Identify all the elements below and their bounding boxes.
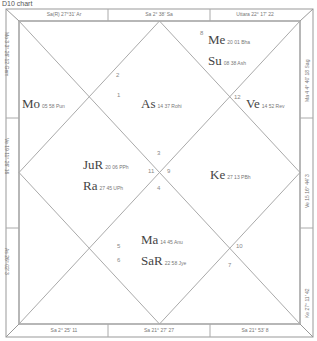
bottom-band-2: Sa 21° 27' 27 bbox=[108, 327, 210, 333]
house-number: 4 bbox=[157, 185, 160, 191]
planet-me: Me20 01 Bha bbox=[208, 30, 250, 48]
right-band-2: Ve 15 16° 44' 3 bbox=[304, 138, 310, 208]
planet-mo: Mo05 58 Pun bbox=[22, 94, 65, 112]
planet-degree: 14 52 Rev bbox=[262, 103, 285, 109]
right-band-1: Ma 4 4° 40' 18 Sag bbox=[304, 32, 310, 102]
chart-frame bbox=[0, 0, 317, 341]
house-number: 8 bbox=[200, 30, 203, 36]
planet-su: Su08 38 Ash bbox=[208, 51, 246, 69]
planet-abbr: As bbox=[141, 96, 155, 111]
planet-sar: SaR22 58 Jye bbox=[141, 251, 186, 269]
right-band-3: Ke 27° 11' 42 bbox=[304, 248, 310, 318]
planet-degree: 20 06 PPh bbox=[105, 164, 128, 170]
house-number: 6 bbox=[117, 257, 120, 263]
planet-abbr: Mo bbox=[22, 96, 40, 111]
planet-degree: 14 45 Anu bbox=[160, 239, 183, 245]
house-number: 12 bbox=[234, 94, 241, 100]
planet-abbr: SaR bbox=[141, 253, 163, 268]
house-number: 2 bbox=[116, 72, 119, 78]
bottom-band-1: Sa 2° 25' 11 bbox=[20, 327, 108, 333]
planet-ma: Ma14 45 Anu bbox=[141, 230, 183, 248]
planet-jur: JuR20 06 PPh bbox=[83, 155, 129, 173]
left-band-1: Mo 3 3° 26' 12 Gem bbox=[4, 32, 10, 102]
top-band-3: Uttara 22° 17' 22 bbox=[210, 11, 300, 17]
planet-degree: 20 01 Bha bbox=[227, 39, 250, 45]
planet-abbr: JuR bbox=[83, 157, 103, 172]
bottom-band-3: Sa 21° 53' 8 bbox=[210, 327, 300, 333]
planet-ra: Ra27 45 UPh bbox=[83, 176, 123, 194]
planet-abbr: Me bbox=[208, 32, 225, 47]
bevel-tl bbox=[6, 9, 19, 21]
planet-degree: 08 38 Ash bbox=[224, 60, 246, 66]
planet-degree: 22 58 Jye bbox=[165, 260, 187, 266]
planet-abbr: Ve bbox=[246, 96, 260, 111]
planet-as: As14 37 Rohi bbox=[141, 94, 182, 112]
house-number: 10 bbox=[236, 243, 243, 249]
planet-degree: 14 37 Rohi bbox=[157, 103, 181, 109]
planet-abbr: Ke bbox=[210, 167, 225, 182]
top-band-2: Sa 2° 38' Sa bbox=[108, 11, 210, 17]
house-number: 9 bbox=[167, 168, 170, 174]
house-number: 3 bbox=[157, 150, 160, 156]
planet-abbr: Ra bbox=[83, 178, 97, 193]
left-band-3: As 26° 02' 3 bbox=[4, 248, 10, 318]
house-number: 5 bbox=[117, 243, 120, 249]
planet-ke: Ke27 13 PBh bbox=[210, 165, 251, 183]
planet-abbr: Ma bbox=[141, 232, 158, 247]
house-number: 1 bbox=[117, 92, 120, 98]
bevel-tr bbox=[300, 9, 313, 21]
bevel-bl bbox=[6, 324, 19, 337]
planet-degree: 05 58 Pun bbox=[42, 103, 65, 109]
planet-abbr: Su bbox=[208, 53, 222, 68]
planet-degree: 27 45 UPh bbox=[99, 185, 123, 191]
top-band-1: Sa(R) 27°31' Ar bbox=[20, 11, 108, 17]
house-number: 11 bbox=[148, 168, 154, 174]
house-number: 7 bbox=[228, 262, 231, 268]
left-band-2: Ve 19 11° 26' 16 bbox=[4, 138, 10, 208]
planet-ve: Ve14 52 Rev bbox=[246, 94, 285, 112]
bevel-br bbox=[300, 324, 313, 337]
planet-degree: 27 13 PBh bbox=[227, 174, 250, 180]
